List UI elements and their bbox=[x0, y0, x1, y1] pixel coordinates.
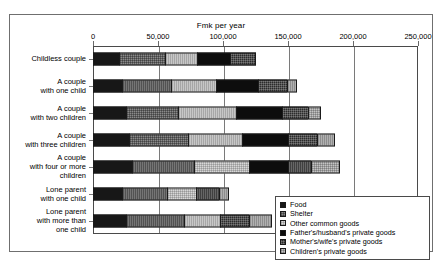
legend-item[interactable]: Food bbox=[280, 200, 425, 209]
bar-segment bbox=[249, 160, 288, 173]
bar-stack bbox=[93, 160, 340, 173]
bar-segment bbox=[188, 134, 243, 147]
bar-segment bbox=[178, 107, 237, 120]
category-label: A couple with two children bbox=[0, 104, 86, 122]
bar-segment bbox=[93, 214, 126, 227]
bar-stack bbox=[93, 134, 335, 147]
legend-item[interactable]: Mother's/wife's private goods bbox=[280, 237, 425, 246]
x-axis-tick-label: 250,000 bbox=[404, 32, 431, 41]
bar-segment bbox=[288, 160, 311, 173]
bar-segment bbox=[184, 214, 220, 227]
bar-segment bbox=[119, 53, 165, 66]
bar-segment bbox=[258, 80, 287, 93]
bar-segment bbox=[287, 80, 297, 93]
bar-segment bbox=[288, 134, 317, 147]
category-label: Lone parent with more than one child bbox=[0, 207, 86, 235]
bar-segment bbox=[93, 107, 126, 120]
category-label: Childless couple bbox=[0, 55, 86, 64]
x-axis-tick-label: 150,000 bbox=[274, 32, 301, 41]
bar-segment bbox=[93, 160, 132, 173]
bar-stack bbox=[93, 107, 321, 120]
chart-title: Fmk per year bbox=[10, 21, 432, 30]
bar-segment bbox=[194, 160, 249, 173]
legend-item-label: Food bbox=[290, 200, 306, 209]
x-axis-tick-label: 0 bbox=[91, 32, 95, 41]
bar-segment bbox=[165, 53, 198, 66]
bar-segment bbox=[216, 80, 258, 93]
legend-item[interactable]: Other common goods bbox=[280, 219, 425, 228]
bar-segment bbox=[122, 80, 171, 93]
category-label: Lone parent with one child bbox=[0, 185, 86, 203]
bar-segment bbox=[129, 134, 188, 147]
bar-segment bbox=[282, 107, 308, 120]
legend-item[interactable]: Shelter bbox=[280, 209, 425, 218]
bar-stack bbox=[93, 187, 229, 200]
bar-segment bbox=[126, 214, 185, 227]
bar-segment bbox=[317, 134, 335, 147]
legend-item-label: Other common goods bbox=[290, 219, 359, 228]
legend-item[interactable]: Father's/husband's private goods bbox=[280, 228, 425, 237]
legend-swatch-icon bbox=[280, 211, 286, 217]
bar-stack bbox=[93, 80, 297, 93]
bar-segment bbox=[93, 53, 119, 66]
bar-segment bbox=[167, 187, 196, 200]
bar-segment bbox=[171, 80, 217, 93]
legend-swatch-icon bbox=[280, 230, 286, 236]
x-axis-tick-mark bbox=[418, 41, 419, 46]
category-label: A couple with three children bbox=[0, 131, 86, 149]
bar-segment bbox=[236, 107, 282, 120]
legend-item-label: Shelter bbox=[290, 209, 313, 218]
bar-segment bbox=[242, 134, 288, 147]
bar-stack bbox=[93, 53, 256, 66]
x-axis-tick-label: 50,000 bbox=[147, 32, 170, 41]
bar-segment bbox=[93, 80, 122, 93]
x-axis-tick-label: 200,000 bbox=[339, 32, 366, 41]
legend-item-label: Children's private goods bbox=[290, 247, 367, 256]
bar-segment bbox=[249, 214, 272, 227]
category-label: A couple with four or more children bbox=[0, 153, 86, 181]
bar-segment bbox=[132, 160, 194, 173]
category-label: A couple with one child bbox=[0, 77, 86, 95]
bar-segment bbox=[196, 187, 219, 200]
legend-swatch-icon bbox=[280, 239, 286, 245]
legend-item[interactable]: Children's private goods bbox=[280, 246, 425, 255]
legend-swatch-icon bbox=[280, 248, 286, 254]
legend-item-label: Father's/husband's private goods bbox=[290, 228, 395, 237]
chart-figure: Fmk per year 050,000100,000150,000200,00… bbox=[9, 14, 433, 252]
bar-segment bbox=[219, 187, 229, 200]
bar-segment bbox=[220, 214, 249, 227]
legend-swatch-icon bbox=[280, 202, 286, 208]
x-axis-tick-label: 100,000 bbox=[209, 32, 236, 41]
bar-segment bbox=[197, 53, 230, 66]
bar-segment bbox=[308, 107, 321, 120]
bar-segment bbox=[93, 187, 122, 200]
bar-segment bbox=[122, 187, 168, 200]
bar-segment bbox=[230, 53, 256, 66]
bar-segment bbox=[93, 134, 129, 147]
bar-stack bbox=[93, 214, 272, 227]
legend-item-label: Mother's/wife's private goods bbox=[290, 237, 382, 246]
bar-segment bbox=[126, 107, 178, 120]
chart-legend: FoodShelterOther common goodsFather's/hu… bbox=[275, 196, 430, 260]
legend-swatch-icon bbox=[280, 220, 286, 226]
bar-segment bbox=[311, 160, 340, 173]
